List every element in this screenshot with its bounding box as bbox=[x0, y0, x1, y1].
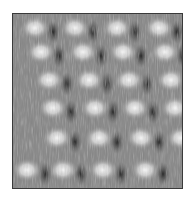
lattice-site bbox=[144, 16, 174, 40]
lattice-site bbox=[80, 96, 110, 120]
lattice-site bbox=[60, 16, 90, 40]
lattice-site bbox=[120, 96, 150, 120]
lattice-site bbox=[130, 158, 160, 182]
lattice-trough bbox=[182, 72, 183, 96]
lattice-site bbox=[48, 158, 78, 182]
lattice-site bbox=[26, 40, 56, 64]
lattice-site bbox=[114, 68, 144, 92]
lattice-site bbox=[108, 40, 138, 64]
lattice-site bbox=[68, 40, 98, 64]
lattice-site bbox=[102, 16, 132, 40]
lattice-image bbox=[13, 14, 183, 189]
lattice-site bbox=[74, 68, 104, 92]
lattice-site bbox=[150, 40, 180, 64]
lattice-site bbox=[38, 96, 68, 120]
lattice-site bbox=[42, 126, 72, 150]
microscopy-image bbox=[12, 13, 183, 189]
lattice-site bbox=[13, 158, 42, 182]
lattice-site bbox=[20, 16, 50, 40]
lattice-site bbox=[84, 126, 114, 150]
lattice-site bbox=[88, 158, 118, 182]
lattice-site bbox=[126, 126, 156, 150]
lattice-site bbox=[34, 68, 64, 92]
